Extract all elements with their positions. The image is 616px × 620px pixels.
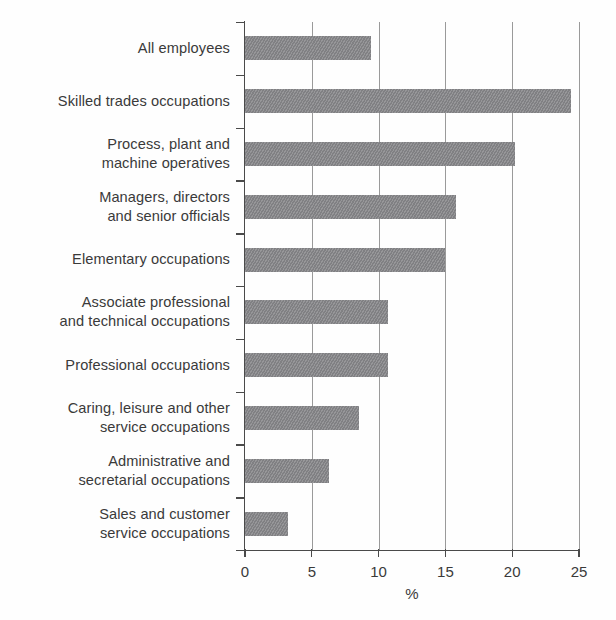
- bar: [245, 406, 359, 430]
- x-tick-label-10: 10: [370, 563, 387, 580]
- category-label: Sales and customer service occupations: [2, 505, 230, 543]
- x-axis-title: %: [245, 585, 579, 602]
- bar: [245, 248, 445, 272]
- bar: [245, 89, 571, 113]
- y-tick-10: [236, 550, 245, 551]
- x-tick-15: [445, 549, 446, 557]
- y-tick-0: [236, 22, 245, 23]
- x-tick-5: [311, 549, 312, 557]
- x-tick-label-15: 15: [437, 563, 454, 580]
- category-label: Caring, leisure and other service occupa…: [2, 399, 230, 437]
- category-label: Administrative and secretarial occupatio…: [2, 452, 230, 490]
- y-tick-1: [236, 75, 245, 76]
- y-tick-9: [236, 497, 245, 498]
- x-tick-label-5: 5: [308, 563, 316, 580]
- y-tick-5: [236, 286, 245, 287]
- category-label: Associate professional and technical occ…: [2, 293, 230, 331]
- bar-chart: All employeesSkilled trades occupationsP…: [0, 0, 616, 620]
- y-tick-2: [236, 128, 245, 129]
- y-tick-4: [236, 233, 245, 234]
- category-label: Process, plant and machine operatives: [2, 135, 230, 173]
- bar: [245, 459, 329, 483]
- x-tick-10: [378, 549, 379, 557]
- category-label: Skilled trades occupations: [2, 92, 230, 111]
- y-tick-3: [236, 180, 245, 181]
- bar: [245, 36, 371, 60]
- y-tick-6: [236, 339, 245, 340]
- plot-area: 0510152025: [245, 22, 579, 550]
- bar: [245, 353, 388, 377]
- bar: [245, 142, 515, 166]
- x-axis-line: [244, 550, 580, 551]
- category-label: Elementary occupations: [2, 250, 230, 269]
- bar: [245, 300, 388, 324]
- gridline-25: [579, 22, 580, 550]
- x-tick-20: [512, 549, 513, 557]
- bar: [245, 195, 456, 219]
- y-tick-7: [236, 392, 245, 393]
- category-label: Managers, directors and senior officials: [2, 188, 230, 226]
- bar: [245, 512, 288, 536]
- category-label: All employees: [2, 39, 230, 58]
- x-tick-label-20: 20: [504, 563, 521, 580]
- x-tick-label-0: 0: [241, 563, 249, 580]
- y-tick-8: [236, 444, 245, 445]
- category-label: Professional occupations: [2, 356, 230, 375]
- category-labels: All employeesSkilled trades occupationsP…: [0, 22, 238, 550]
- x-tick-label-25: 25: [571, 563, 588, 580]
- x-tick-25: [578, 549, 579, 557]
